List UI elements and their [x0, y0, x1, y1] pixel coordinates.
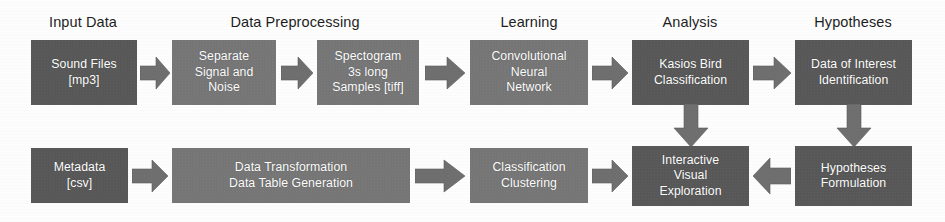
- node-spectogram-line1: Spectogram: [332, 49, 404, 64]
- node-cnn-line1: Convolutional: [491, 49, 566, 64]
- node-clustering-line1: Classification: [492, 160, 565, 175]
- node-kasios-line2: Classification: [654, 73, 727, 88]
- node-clustering-line2: Clustering: [492, 176, 565, 191]
- node-metadata-line2: [csv]: [54, 176, 106, 191]
- node-sound-files-line1: Sound Files: [51, 57, 117, 72]
- node-cnn-line3: Network: [491, 80, 566, 95]
- node-separate-signal-and-noise: Separate Signal and Noise: [172, 40, 276, 105]
- arrow-transformation-to-clustering-icon: [415, 159, 465, 193]
- node-kasios-line1: Kasios Bird: [654, 57, 727, 72]
- node-data-transformation-table-generation: Data Transformation Data Table Generatio…: [172, 148, 410, 203]
- pipeline-diagram: Input Data Data Preprocessing Learning A…: [0, 0, 945, 222]
- stage-label-learning: Learning: [500, 14, 557, 30]
- node-separate-line3: Noise: [195, 80, 254, 95]
- arrow-kasios-down-icon: [673, 104, 709, 147]
- arrow-kasios-to-data-of-interest-icon: [753, 56, 791, 90]
- node-interactive-line2: Visual: [659, 168, 721, 183]
- node-data-of-interest-line2: Identification: [811, 73, 896, 88]
- stage-label-hypotheses: Hypotheses: [814, 14, 892, 30]
- node-cnn-line2: Neural: [491, 65, 566, 80]
- node-kasios-bird-classification: Kasios Bird Classification: [632, 40, 749, 105]
- arrow-formulation-to-exploration-icon: [753, 157, 791, 195]
- node-spectogram-line3: Samples [tiff]: [332, 80, 404, 95]
- node-metadata-line1: Metadata: [54, 160, 106, 175]
- arrow-separate-to-spectogram-icon: [281, 56, 313, 90]
- arrow-data-of-interest-down-icon: [836, 104, 872, 147]
- node-data-of-interest-identification: Data of Interest Identification: [795, 40, 912, 105]
- arrow-spectogram-to-cnn-icon: [425, 56, 465, 90]
- arrow-metadata-to-transformation-icon: [132, 159, 168, 193]
- node-sound-files-line2: [mp3]: [51, 73, 117, 88]
- node-convolutional-neural-network: Convolutional Neural Network: [470, 40, 588, 105]
- node-metadata: Metadata [csv]: [31, 148, 128, 203]
- node-hypotheses-formulation-line1: Hypotheses: [821, 161, 886, 176]
- arrow-cnn-to-kasios-icon: [592, 56, 628, 90]
- node-separate-line2: Signal and: [195, 65, 254, 80]
- node-sound-files: Sound Files [mp3]: [31, 40, 137, 105]
- node-interactive-line3: Exploration: [659, 184, 721, 199]
- node-interactive-line1: Interactive: [659, 153, 721, 168]
- node-spectogram-samples: Spectogram 3s long Samples [tiff]: [317, 40, 419, 105]
- node-data-transformation-line2: Data Table Generation: [229, 176, 353, 191]
- arrow-sound-to-separate-icon: [140, 56, 170, 90]
- stage-label-data-preprocessing: Data Preprocessing: [230, 14, 359, 30]
- node-spectogram-line2: 3s long: [332, 65, 404, 80]
- node-separate-line1: Separate: [195, 49, 254, 64]
- stage-label-analysis: Analysis: [663, 14, 718, 30]
- stage-label-input-data: Input Data: [49, 14, 117, 30]
- node-hypotheses-formulation: Hypotheses Formulation: [795, 146, 912, 206]
- node-classification-clustering: Classification Clustering: [470, 148, 588, 203]
- arrow-clustering-to-exploration-icon: [592, 159, 628, 193]
- node-interactive-visual-exploration: Interactive Visual Exploration: [632, 146, 749, 206]
- node-data-of-interest-line1: Data of Interest: [811, 57, 896, 72]
- node-data-transformation-line1: Data Transformation: [229, 160, 353, 175]
- node-hypotheses-formulation-line2: Formulation: [821, 176, 886, 191]
